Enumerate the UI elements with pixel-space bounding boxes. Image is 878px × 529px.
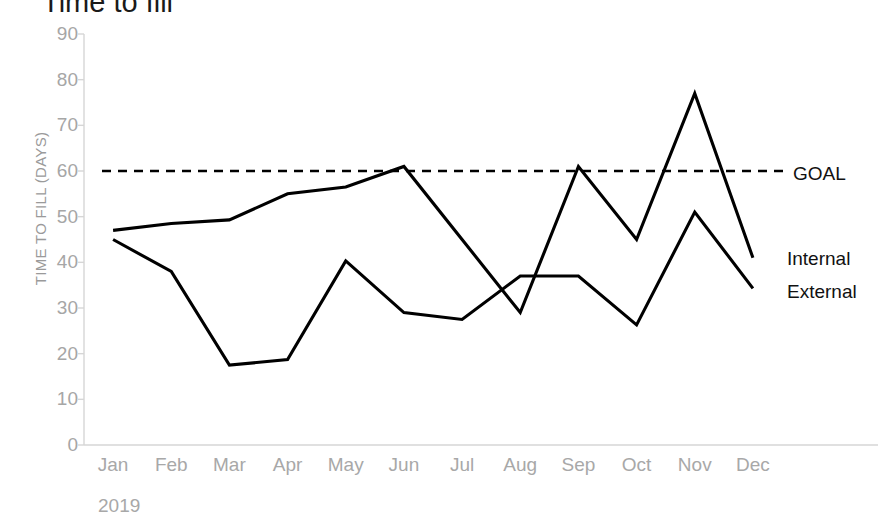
line-chart: Time to fill TIME TO FILL (DAYS) 9080706… xyxy=(0,0,878,529)
external-series-label: External xyxy=(787,281,857,303)
goal-line-label: GOAL xyxy=(793,163,846,185)
internal-series-label: Internal xyxy=(787,248,850,270)
plot-area xyxy=(0,0,878,529)
axis-lines xyxy=(84,34,878,445)
data-series-lines xyxy=(113,93,753,365)
axis-tick-marks xyxy=(78,34,84,445)
